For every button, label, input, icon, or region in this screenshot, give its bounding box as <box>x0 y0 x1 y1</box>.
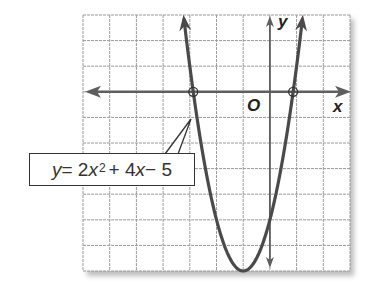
origin-label: O <box>247 96 260 116</box>
equation-x2: x <box>136 159 146 181</box>
x-axis-label: x <box>333 97 342 117</box>
equation-minus: − 5 <box>145 159 172 181</box>
equation-label: y = 2 x 2 + 4 x − 5 <box>29 153 195 186</box>
equation-plus: + 4 <box>109 159 136 181</box>
y-axis-label: y <box>278 12 287 32</box>
equation-y: y <box>52 159 62 181</box>
equation-x1: x <box>88 159 98 181</box>
graph-canvas <box>0 0 366 296</box>
equation-equals: = 2 <box>61 159 88 181</box>
equation-exponent: 2 <box>99 161 106 175</box>
